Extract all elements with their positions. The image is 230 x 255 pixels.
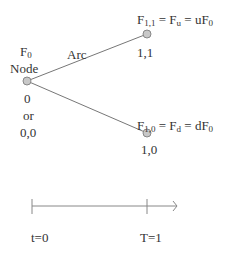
up-node [143,30,151,38]
root-value-label: F0 [20,45,32,59]
up-node-formula: F1,1 = Fu = uF0 [137,13,213,27]
arc-down [27,81,147,133]
arc-up [27,34,147,81]
root-or-label: or [23,109,34,123]
root-name-label: Node [10,62,38,76]
root-index-label: 0 [24,92,31,106]
up-node-coord-label: 1,1 [137,46,153,60]
root-coord-label: 0,0 [20,126,36,140]
timeline-start-label: t=0 [31,231,48,245]
timeline-end-label: T=1 [140,231,162,245]
down-node-coord-label: 1,0 [141,143,157,157]
arc-label: Arc [67,48,87,62]
root-node [23,77,31,85]
down-node-formula: F1,0 = Fd = dF0 [137,119,213,133]
